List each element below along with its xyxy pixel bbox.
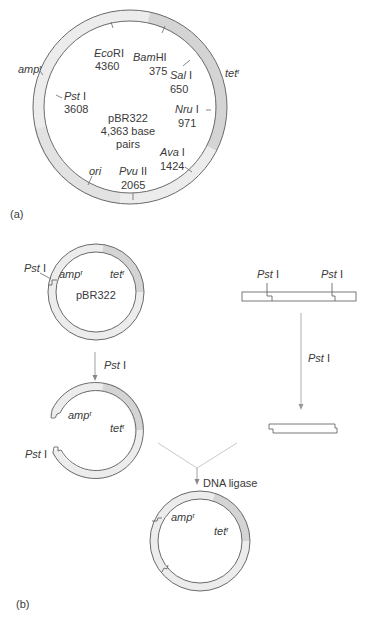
gene-sup: r — [122, 269, 124, 276]
site-bamhi-position: 375 — [149, 65, 167, 77]
enzyme-name: Pst — [321, 268, 337, 280]
plasmid-size-line2: pairs — [98, 138, 158, 150]
enzyme-suffix: HI — [156, 51, 167, 63]
amp-label-intact: ampr — [59, 268, 83, 280]
enzyme-name: Pst — [257, 268, 273, 280]
ligase-label: DNA ligase — [203, 477, 257, 489]
foreign-dna — [242, 283, 356, 301]
gene-name: tet — [225, 67, 237, 79]
gene-name: amp — [171, 511, 192, 523]
site-ecori-position: 4360 — [95, 60, 119, 72]
ori-label: ori — [89, 165, 101, 177]
site-psti-position: 3608 — [64, 103, 88, 115]
enzyme-suffix: I — [41, 448, 47, 460]
enzyme-suffix: I — [186, 69, 192, 81]
enzyme-suffix: II — [138, 165, 147, 177]
pst-cut-label: Pst I — [25, 448, 47, 460]
site-avai-position: 1424 — [160, 160, 184, 172]
enzyme-name: Pvu — [119, 165, 138, 177]
enzyme-name: Nru — [175, 103, 193, 115]
step1-enzyme-label: Pst I — [104, 359, 126, 371]
plasmid-name-intact: pBR322 — [76, 289, 116, 301]
site-pvuii-label: Pvu II — [119, 165, 147, 177]
enzyme-name: Pst — [104, 359, 120, 371]
enzyme-suffix: RI — [113, 47, 124, 59]
plasmid-cut-b — [51, 383, 143, 479]
arrow-head-step2 — [299, 404, 304, 410]
site-pvuii-position: 2065 — [121, 179, 145, 191]
gene-name: tet — [214, 525, 226, 537]
arrow-head-step1 — [93, 375, 98, 381]
gene-sup: r — [89, 410, 91, 417]
enzyme-name: Ava — [160, 146, 179, 158]
panel-b-label: (b) — [16, 598, 29, 610]
step2-enzyme-label: Pst I — [308, 352, 330, 364]
gene-amp-label: ampr — [18, 63, 42, 75]
fragment-site-left: Pst I — [257, 268, 279, 280]
amp-label-cut: ampr — [68, 409, 92, 421]
gene-sup: r — [226, 526, 228, 533]
gene-name: amp — [59, 268, 80, 280]
ligase-line-left — [158, 443, 197, 468]
site-sali-label: Sal I — [170, 69, 192, 81]
gene-name: tet — [110, 268, 122, 280]
gene-tet-label: tetr — [225, 67, 240, 79]
gene-name: amp — [68, 409, 89, 421]
enzyme-suffix: I — [120, 359, 126, 371]
site-nrui-label: Nru I — [175, 103, 199, 115]
ligase-line-right — [197, 443, 237, 468]
plasmid-recombinant — [150, 491, 250, 591]
enzyme-name: Pst — [25, 448, 41, 460]
arrow-head-step3 — [195, 479, 200, 485]
tet-label-intact: tetr — [110, 268, 125, 280]
panel-a-label: (a) — [10, 208, 23, 220]
plasmid-name: pBR322 — [98, 112, 158, 124]
site-sali-position: 650 — [170, 83, 188, 95]
gene-sup: r — [122, 423, 124, 430]
enzyme-name: Pst — [24, 262, 40, 274]
enzyme-name: Eco — [94, 47, 113, 59]
plasmid-size-line1: 4,363 base — [93, 125, 163, 137]
enzyme-name: Pst — [308, 352, 324, 364]
site-avai-label: Ava I — [160, 146, 185, 158]
gene-sup: r — [237, 68, 239, 75]
gene-sup: r — [192, 512, 194, 519]
amp-label-recombinant: ampr — [171, 511, 195, 523]
site-ecori-label: EcoRI — [94, 47, 124, 59]
excised-fragment — [269, 424, 337, 433]
enzyme-suffix: I — [324, 352, 330, 364]
enzyme-suffix: I — [179, 146, 185, 158]
enzyme-suffix: I — [193, 103, 199, 115]
site-bamhi-label: BamHI — [133, 51, 167, 63]
gene-sup: r — [39, 64, 41, 71]
enzyme-suffix: I — [273, 268, 279, 280]
enzyme-suffix: I — [80, 90, 86, 102]
fragment-site-right: Pst I — [321, 268, 343, 280]
enzyme-suffix: I — [337, 268, 343, 280]
enzyme-suffix: I — [40, 262, 46, 274]
pst-site-label: Pst I — [24, 262, 46, 274]
enzyme-name: Pst — [64, 90, 80, 102]
gene-sup: r — [80, 269, 82, 276]
gene-name: amp — [18, 63, 39, 75]
tet-label-recombinant: tetr — [214, 525, 229, 537]
tet-label-cut: tetr — [110, 422, 125, 434]
enzyme-name: Sal — [170, 69, 186, 81]
site-psti-label: Pst I — [64, 90, 86, 102]
site-nrui-position: 971 — [178, 117, 196, 129]
enzyme-name: Bam — [133, 51, 156, 63]
gene-name: tet — [110, 422, 122, 434]
